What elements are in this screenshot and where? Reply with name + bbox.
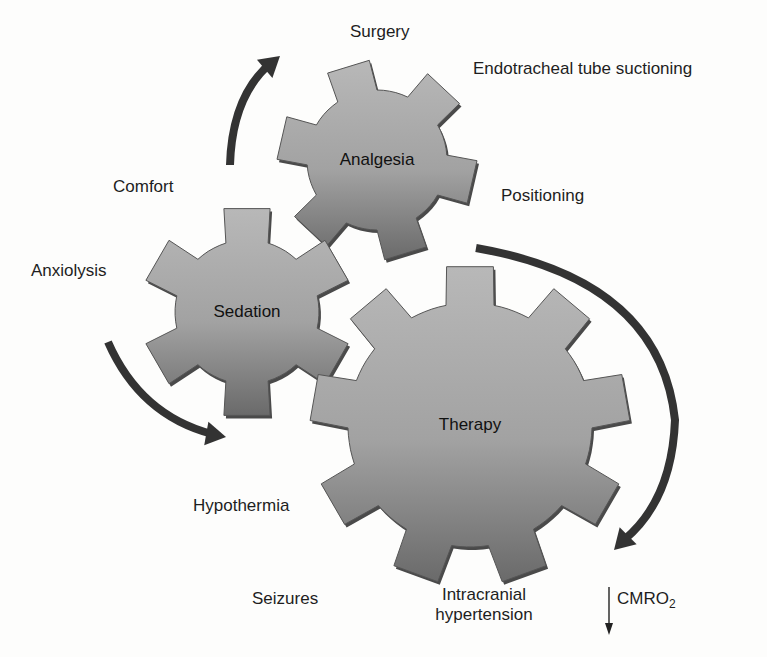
decrease-arrow-icon [603, 585, 615, 637]
intracranial-line-1: Intracranial [404, 585, 564, 605]
intracranial-hypertension-label: Intracranial hypertension [404, 585, 564, 625]
left-arrow-head-icon [204, 422, 228, 449]
anxiolysis-label: Anxiolysis [31, 261, 107, 281]
surgery-label: Surgery [350, 22, 410, 42]
comfort-label: Comfort [113, 177, 173, 197]
top-left-arrow-shaft [230, 62, 272, 165]
hypothermia-label: Hypothermia [193, 496, 289, 516]
analgesia-gear-label: Analgesia [340, 150, 415, 170]
endotracheal-label: Endotracheal tube suctioning [473, 59, 692, 79]
cmro2-label: CMRO2 [617, 589, 676, 614]
positioning-label: Positioning [501, 186, 584, 206]
cmro2-subscript: 2 [669, 597, 676, 611]
intracranial-line-2: hypertension [404, 605, 564, 625]
seizures-label: Seizures [252, 589, 318, 609]
cmro2-main: CMRO [617, 589, 669, 608]
sedation-gear-label: Sedation [213, 302, 280, 322]
gears-diagram: Analgesia Sedation Therapy Surgery Endot… [0, 0, 767, 657]
diagram-graphics [0, 0, 767, 657]
therapy-gear-label: Therapy [439, 415, 501, 435]
